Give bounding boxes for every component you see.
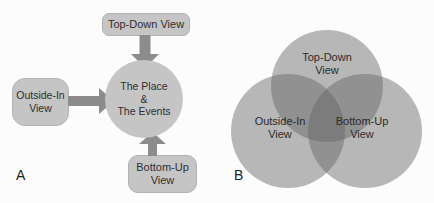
venn-label-bottom-up: Bottom-Up View: [317, 115, 407, 141]
panel-b-letter: B: [234, 167, 243, 183]
center-circle: The Place & The Events: [105, 60, 183, 138]
venn-label-top-down: Top-Down View: [282, 51, 372, 77]
center-circle-label: The Place & The Events: [117, 80, 170, 118]
figure: Top-Down View Outside-In View The Place …: [0, 0, 434, 203]
panel-b: Top-Down View Outside-In View Bottom-Up …: [0, 0, 434, 203]
venn-label-outside-in: Outside-In View: [235, 115, 325, 141]
